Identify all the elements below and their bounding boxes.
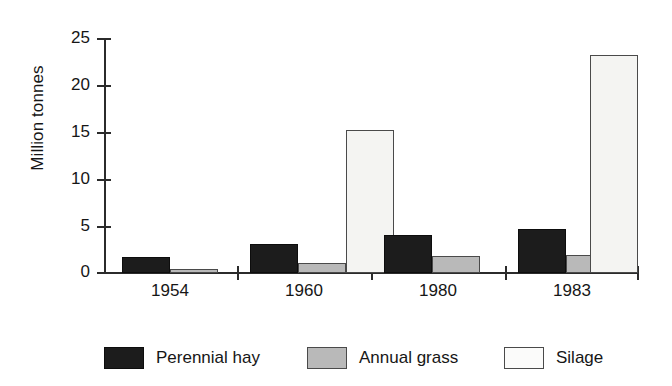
y-tick-label-0: 0 — [44, 262, 90, 282]
x-tick-separator-3 — [505, 266, 507, 280]
legend-label-perennial-hay: Perennial hay — [156, 348, 260, 368]
bar-1983-perennial-hay — [518, 229, 566, 273]
bar-1983-silage — [590, 55, 638, 273]
y-tick-label-15: 15 — [44, 122, 90, 142]
y-tick-0 — [97, 272, 111, 274]
y-tick-label-25: 25 — [44, 28, 90, 48]
bar-1980-perennial-hay — [384, 235, 432, 273]
x-label-1983: 1983 — [512, 281, 632, 301]
chart-legend: Perennial hay Annual grass Silage — [104, 345, 614, 371]
legend-item-perennial-hay: Perennial hay — [104, 345, 260, 371]
bar-1954-annual-grass — [170, 269, 218, 273]
x-label-1980: 1980 — [378, 281, 498, 301]
y-tick-label-10: 10 — [44, 169, 90, 189]
x-label-1960: 1960 — [244, 281, 364, 301]
bar-1960-annual-grass — [298, 263, 346, 273]
legend-swatch-silage — [504, 347, 544, 369]
y-tick-10 — [97, 179, 111, 181]
y-axis-line — [104, 38, 106, 273]
bar-1960-perennial-hay — [250, 244, 298, 273]
y-tick-5 — [97, 226, 111, 228]
x-label-1954: 1954 — [110, 281, 230, 301]
legend-item-silage: Silage — [504, 345, 603, 371]
y-tick-label-20: 20 — [44, 75, 90, 95]
y-tick-label-5: 5 — [44, 216, 90, 236]
bar-chart: Million tonnes 25 20 15 10 5 0 1954 1960… — [0, 0, 672, 386]
x-tick-separator-1 — [237, 266, 239, 280]
y-tick-15 — [97, 132, 111, 134]
y-tick-20 — [97, 85, 111, 87]
legend-label-annual-grass: Annual grass — [359, 348, 458, 368]
bar-1980-annual-grass — [432, 256, 480, 273]
legend-swatch-perennial-hay — [104, 347, 144, 369]
y-tick-25 — [97, 38, 111, 40]
legend-label-silage: Silage — [556, 348, 603, 368]
legend-swatch-annual-grass — [307, 347, 347, 369]
bar-1954-perennial-hay — [122, 257, 170, 273]
legend-item-annual-grass: Annual grass — [307, 345, 458, 371]
